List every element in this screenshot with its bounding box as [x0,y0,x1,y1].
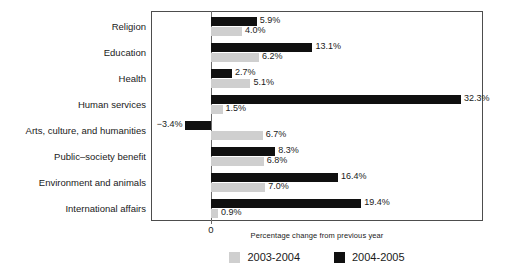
bar-value-label: 7.0% [268,182,289,191]
bar-light [211,53,259,62]
bar-value-label: 4.0% [245,26,266,35]
bar-row: 2.7%5.1% [0,66,508,92]
legend-swatch-icon [334,252,345,263]
bar-value-label: 13.1% [315,42,341,51]
bar-value-label: 6.7% [266,130,287,139]
bars-layer: 5.9%4.0%13.1%6.2%2.7%5.1%32.3%1.5%−3.4%6… [0,11,508,221]
bar-value-label: 32.3% [464,94,490,103]
bar-value-label: 1.5% [226,104,247,113]
bar-row: 8.3%6.8% [0,144,508,170]
bar-light [211,79,250,88]
bar-value-label: 6.8% [267,156,288,165]
bar-value-label: 8.3% [278,146,299,155]
bar-value-label: 19.4% [364,198,390,207]
bar-value-label: 5.9% [260,16,281,25]
bar-dark [185,121,211,130]
legend-label: 2004-2005 [352,252,405,263]
bar-row: 16.4%7.0% [0,170,508,196]
bar-light [211,209,218,218]
bar-value-label: 6.2% [262,52,283,61]
bar-value-label: 2.7% [235,68,256,77]
bar-light [211,183,265,192]
bar-value-label: 16.4% [341,172,367,181]
bar-row: 5.9%4.0% [0,14,508,40]
bar-light [211,27,242,36]
chart-legend: 2003-20042004-2005 [151,247,483,267]
bar-light [211,105,223,114]
legend-item: 2004-2005 [334,252,405,263]
bar-row: 19.4%0.9% [0,196,508,222]
x-axis-title: Percentage change from previous year [151,231,483,240]
bar-dark [211,95,461,104]
legend-item: 2003-2004 [229,252,300,263]
bar-row: 13.1%6.2% [0,40,508,66]
bar-row: 32.3%1.5% [0,92,508,118]
bar-dark [211,147,275,156]
horizontal-bar-chart: ReligionEducationHealthHuman servicesArt… [0,0,508,280]
bar-value-label: 0.9% [221,208,242,217]
bar-light [211,157,264,166]
legend-swatch-icon [229,252,240,263]
bar-dark [211,69,232,78]
bar-value-label: 5.1% [253,78,274,87]
bar-value-label: −3.4% [157,120,182,129]
bar-row: −3.4%6.7% [0,118,508,144]
bar-light [211,131,263,140]
legend-label: 2003-2004 [247,252,300,263]
